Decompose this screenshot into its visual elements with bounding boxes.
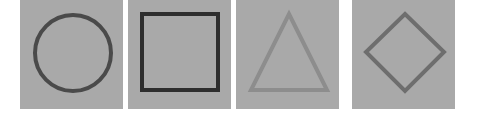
shape-panel-diamond (352, 0, 455, 109)
circle-shape-canvas (20, 0, 123, 109)
shape-panel-square (128, 0, 231, 109)
square-shape-canvas (128, 0, 231, 109)
shape-panel-triangle (236, 0, 339, 109)
shape-panel-circle (20, 0, 123, 109)
diamond-shape-canvas (352, 0, 455, 109)
shape-panel-strip (0, 0, 477, 117)
triangle-shape-canvas (236, 0, 339, 109)
